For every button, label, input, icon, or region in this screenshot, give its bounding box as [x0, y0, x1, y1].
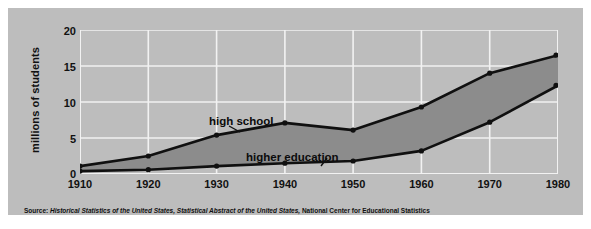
x-tick-label: 1910	[55, 178, 105, 191]
x-tick-label: 1960	[396, 178, 446, 191]
x-tick-label: 1920	[123, 178, 173, 191]
x-tick-label: 1950	[328, 178, 378, 191]
series-label-higher-education: higher education	[246, 151, 339, 163]
x-axis-tick-labels: 1910 1920 1930 1940 1950 1960 1970 1980	[80, 178, 558, 194]
y-axis-tick-labels: 20 15 10 5 0	[44, 30, 76, 174]
chart-figure: millions of students 20 15 10 5 0	[0, 0, 591, 229]
chart-panel: millions of students 20 15 10 5 0	[8, 8, 583, 215]
y-tick-label: 10	[48, 98, 76, 109]
source-note-italic: Historical Statistics of the United Stat…	[50, 207, 300, 214]
x-tick-label: 1970	[465, 178, 515, 191]
series-label-high-school: high school	[209, 115, 274, 127]
x-tick-label: 1930	[192, 178, 242, 191]
source-note: Source: Historical Statistics of the Uni…	[24, 206, 430, 215]
y-axis-title: millions of students	[26, 30, 44, 170]
y-tick-label: 15	[48, 62, 76, 73]
y-tick-label: 5	[48, 134, 76, 145]
source-note-tail: National Center for Educational Statisti…	[300, 207, 430, 214]
source-note-prefix: Source:	[24, 207, 50, 214]
y-tick-label: 20	[48, 26, 76, 37]
x-tick-label: 1980	[533, 178, 583, 191]
x-tick-label: 1940	[260, 178, 310, 191]
